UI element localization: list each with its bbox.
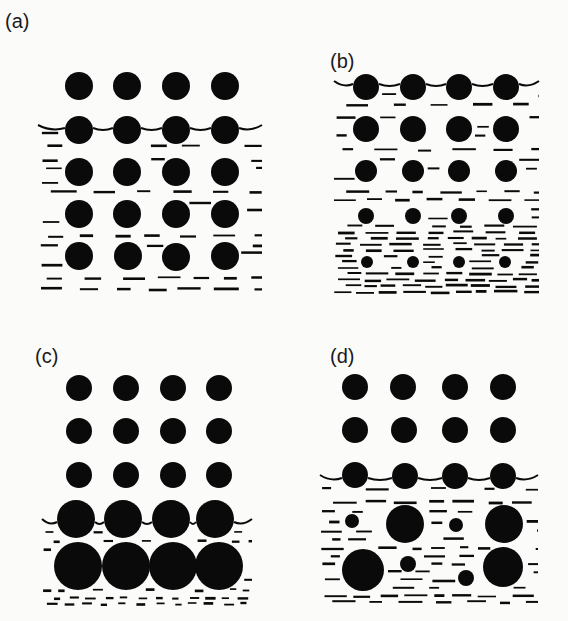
particle-circle: [449, 518, 463, 532]
particle-circle: [66, 462, 92, 488]
particle-circle: [65, 200, 93, 228]
particle-circle: [211, 200, 239, 228]
particle-circle: [358, 208, 374, 224]
particle-circle: [160, 375, 186, 401]
particle-circle: [442, 417, 468, 443]
particle-circle: [493, 116, 519, 142]
particles-d: [342, 374, 523, 591]
particle-circle: [65, 158, 93, 186]
particle-circle: [196, 500, 234, 538]
particle-circle: [149, 542, 197, 590]
particle-circle: [391, 417, 417, 443]
particle-circle: [361, 256, 373, 268]
particle-circle: [446, 74, 472, 100]
particle-circle: [499, 256, 511, 268]
panel-label-c: (c): [35, 345, 58, 367]
particle-circle: [448, 160, 470, 182]
particle-circle: [402, 160, 424, 182]
panel-d: (d): [320, 345, 538, 603]
panel-label-d: (d): [330, 345, 354, 367]
particle-circle: [102, 542, 150, 590]
particle-circle: [211, 72, 239, 100]
particle-circle: [342, 462, 368, 488]
panel-a: (a): [5, 10, 262, 290]
particle-circle: [113, 116, 141, 144]
particle-circle: [162, 200, 190, 228]
particle-circle: [65, 116, 93, 144]
particle-circle: [65, 242, 93, 270]
panel-label-a: (a): [5, 10, 29, 32]
particle-circle: [400, 116, 426, 142]
particle-circle: [483, 547, 523, 587]
panel-c: (c): [35, 345, 252, 605]
particle-circle: [57, 500, 95, 538]
particle-circle: [113, 158, 141, 186]
particle-circle: [113, 375, 139, 401]
particle-circle: [342, 374, 368, 400]
particle-circle: [392, 463, 418, 489]
particle-circle: [66, 375, 92, 401]
particles-c: [54, 375, 243, 590]
particle-circle: [453, 256, 465, 268]
particle-circle: [490, 374, 516, 400]
panel-b: (b): [330, 50, 539, 293]
particle-circle: [152, 500, 190, 538]
particle-circle: [495, 160, 517, 182]
particle-circle: [104, 500, 142, 538]
particle-circle: [160, 462, 186, 488]
particle-circle: [490, 463, 516, 489]
particle-circle: [485, 505, 523, 543]
particle-circle: [400, 556, 416, 572]
particle-circle: [114, 242, 142, 270]
particle-circle: [342, 549, 384, 591]
particle-circle: [405, 208, 421, 224]
four-panel-particle-diagram: (a) (b) (c) (d): [0, 0, 568, 621]
particle-circle: [206, 462, 232, 488]
particle-circle: [113, 462, 139, 488]
particle-circle: [113, 200, 141, 228]
particle-circle: [162, 116, 190, 144]
particle-circle: [195, 542, 243, 590]
panel-label-b: (b): [330, 50, 354, 72]
particle-circle: [211, 242, 239, 270]
particle-circle: [400, 74, 426, 100]
particle-circle: [206, 375, 232, 401]
particle-circle: [54, 542, 102, 590]
particle-circle: [353, 74, 379, 100]
particle-circle: [446, 116, 472, 142]
particle-circle: [211, 158, 239, 186]
particle-circle: [206, 418, 232, 444]
particle-circle: [458, 570, 474, 586]
particle-circle: [442, 374, 468, 400]
particle-circle: [442, 463, 468, 489]
particle-circle: [162, 158, 190, 186]
particle-circle: [451, 208, 467, 224]
particle-circle: [490, 417, 516, 443]
particle-circle: [65, 72, 93, 100]
particle-circle: [386, 505, 424, 543]
particle-circle: [66, 418, 92, 444]
particle-circle: [390, 374, 416, 400]
particle-circle: [162, 243, 190, 271]
particle-circle: [342, 417, 368, 443]
particle-circle: [407, 256, 419, 268]
particle-circle: [353, 116, 379, 142]
particle-circle: [493, 74, 519, 100]
particle-circle: [113, 72, 141, 100]
particle-circle: [355, 160, 377, 182]
particle-circle: [211, 116, 239, 144]
particle-circle: [113, 418, 139, 444]
particle-circle: [498, 208, 514, 224]
particle-circle: [345, 514, 359, 528]
particle-circle: [160, 418, 186, 444]
particles-a: [65, 72, 239, 271]
particle-circle: [162, 72, 190, 100]
